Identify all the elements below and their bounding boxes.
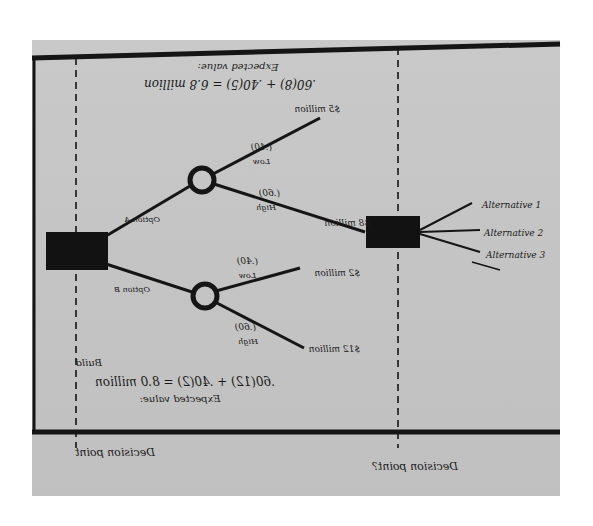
lower-low-label: Low [239,271,257,280]
chance-node-lower [193,284,217,308]
decision-node-left [46,232,108,270]
lower-ev-tag: Build [75,357,103,368]
upper-low-probability: (.40) [250,142,272,152]
lower-high-probability: (.60) [234,322,256,332]
right-alt-2-label: Alternative 2 [483,228,544,238]
right-branch-3-tail [472,262,500,270]
lower-high-label: High [238,337,259,346]
left-branch-lower-label: Option B [114,285,150,294]
right-branch-1 [420,203,472,230]
right-branch-3 [420,234,480,252]
upper-high-probability: (.60) [258,188,280,198]
right-branch-2 [420,230,480,232]
branch-to-upper-chance [106,186,190,236]
decision-node-right [366,216,420,248]
lower-ev-label: Expected value: [140,393,222,404]
timeline-left-label: Decision point [74,446,156,459]
upper-ev-label: Expected value: [198,62,280,73]
upper-high-label: High [256,203,277,212]
upper-high-outcome: $8 million [324,218,370,228]
chance-node-upper [190,168,214,192]
timeline-right-label: Decision point? [372,460,459,473]
lower-low-branch [216,268,300,291]
upper-low-label: Low [253,157,271,166]
right-alt-1-label: Alternative 1 [481,200,541,210]
top-border-line [32,44,560,58]
decision-tree-diagram: .60(8) + .40(5) = 6.8 million Expected v… [0,0,593,526]
lower-low-probability: (.40) [236,256,258,266]
lower-high-outcome: $12 million [308,344,360,354]
right-alt-3-label: Alternative 3 [485,250,546,260]
lower-low-outcome: $2 million [314,268,360,278]
lower-high-branch [215,302,304,348]
lower-ev-equation: .60(12) + .40(2) = 8.0 million [95,375,275,389]
upper-ev-equation: .60(8) + .40(5) = 6.8 million [144,77,316,91]
upper-low-outcome: $5 million [294,104,340,114]
left-branch-upper-label: Option A [124,215,160,224]
